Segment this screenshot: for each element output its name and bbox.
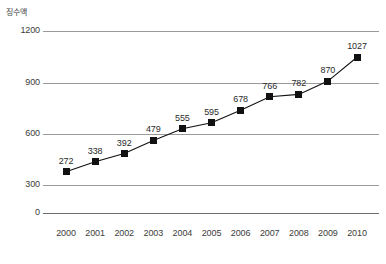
data-point-marker [354,54,361,61]
data-point-marker [208,119,215,126]
series-line-layer [0,0,386,264]
x-tick-label: 2010 [337,228,377,238]
data-point-marker [266,93,273,100]
data-point-label: 595 [190,107,234,117]
data-point-marker [150,137,157,144]
data-point-marker [63,168,70,175]
data-point-label: 1027 [335,41,379,51]
plot-area: 1200 900 600 300 0 272338392479555595678… [0,0,386,264]
data-point-label: 479 [131,124,175,134]
data-point-label: 870 [306,65,350,75]
data-point-label: 272 [44,156,88,166]
data-point-marker [324,78,331,85]
data-point-marker [92,158,99,165]
data-point-label: 392 [102,138,146,148]
data-point-marker [179,125,186,132]
data-point-label: 782 [277,78,321,88]
chart-container: 징수액 1200 900 600 300 0 27233839247955559… [0,0,386,264]
data-point-marker [295,91,302,98]
data-point-marker [237,107,244,114]
data-point-marker [121,150,128,157]
data-point-label: 678 [219,94,263,104]
